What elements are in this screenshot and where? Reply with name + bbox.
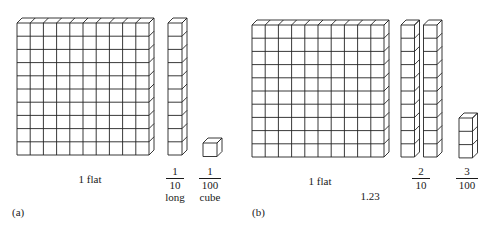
- panel-b-longs-fraction: 2 10: [412, 166, 430, 191]
- panel-b-label: (b): [252, 206, 265, 218]
- panel-a-cube: [203, 138, 222, 157]
- denominator: 10: [166, 180, 184, 191]
- panel-a-long: [168, 18, 187, 155]
- panel-b-cubes-fraction: 3 100: [456, 166, 478, 191]
- numerator: 1: [166, 166, 184, 177]
- numerator: 3: [456, 166, 478, 177]
- panel-a-flat-caption: 1 flat: [60, 173, 120, 185]
- panel-b-flat: [252, 20, 389, 157]
- panel-a-cube-caption: cube: [195, 191, 225, 203]
- denominator: 100: [456, 180, 478, 191]
- panel-a-label: (a): [12, 206, 24, 218]
- numerator: 1: [199, 166, 221, 177]
- denominator: 10: [412, 180, 430, 191]
- panel-a-flat: [17, 18, 154, 155]
- panel-b-long-2: [424, 20, 443, 157]
- numerator: 2: [412, 166, 430, 177]
- panel-a-long-caption: long: [160, 191, 190, 203]
- panel-b-total-value: 1.23: [352, 190, 388, 202]
- panel-a-cube-fraction: 1 100: [199, 166, 221, 191]
- panel-b-cube-stack: [459, 113, 478, 158]
- panel-a-long-fraction: 1 10: [166, 166, 184, 191]
- denominator: 100: [199, 180, 221, 191]
- base-ten-blocks-figure: [0, 0, 491, 228]
- panel-b-flat-caption: 1 flat: [290, 175, 350, 187]
- panel-b-long-1: [401, 20, 420, 157]
